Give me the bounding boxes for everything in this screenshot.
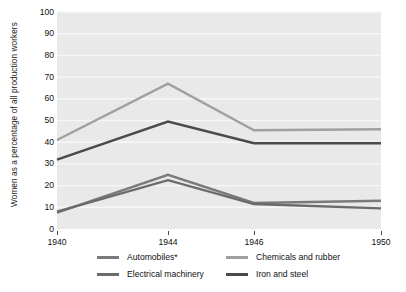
- chart-figure: Women as a percentage of all production …: [0, 0, 406, 292]
- x-tick-label: 1946: [244, 237, 263, 247]
- x-axis-tick-labels: 1940194419461950: [0, 0, 406, 292]
- legend-label: Automobiles*: [127, 252, 178, 262]
- legend-swatch: [226, 273, 248, 276]
- legend-item: Iron and steel: [226, 269, 308, 279]
- x-tick-mark: [381, 231, 382, 235]
- legend-item: Chemicals and rubber: [226, 252, 340, 262]
- x-tick-mark: [57, 231, 58, 235]
- legend-swatch: [97, 256, 119, 259]
- legend-swatch: [97, 273, 119, 276]
- legend-item: Electrical machinery: [97, 269, 204, 279]
- legend-label: Electrical machinery: [127, 269, 204, 279]
- x-tick-mark: [254, 231, 255, 235]
- legend-label: Iron and steel: [256, 269, 308, 279]
- x-tick-label: 1950: [371, 237, 390, 247]
- legend-swatch: [226, 256, 248, 259]
- x-tick-label: 1940: [47, 237, 66, 247]
- x-tick-mark: [168, 231, 169, 235]
- chart-legend: Automobiles*Electrical machineryChemical…: [0, 252, 406, 292]
- legend-label: Chemicals and rubber: [256, 252, 340, 262]
- x-tick-label: 1944: [158, 237, 177, 247]
- legend-item: Automobiles*: [97, 252, 178, 262]
